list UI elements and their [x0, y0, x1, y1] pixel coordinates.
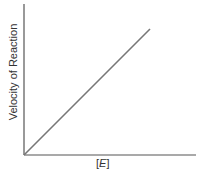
data-line [24, 29, 150, 155]
y-axis-label: Velocity of Reaction [7, 12, 19, 132]
x-axis-label: [E] [96, 157, 109, 169]
chart-canvas [0, 0, 204, 171]
